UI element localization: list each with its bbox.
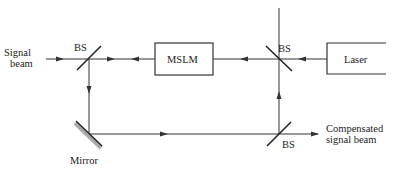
vertical-compensation-beam bbox=[277, 8, 282, 134]
mslm-to-bs-beam bbox=[89, 57, 155, 62]
bs-left-label: BS bbox=[74, 42, 87, 53]
bs-to-mirror-beam bbox=[87, 59, 92, 134]
mirror-label: Mirror bbox=[70, 155, 98, 166]
output-label-line2: signal beam bbox=[326, 134, 376, 145]
output-label-line1: Compensated bbox=[326, 123, 384, 134]
laser-beam bbox=[279, 57, 327, 62]
signal-beam-label-line1: Signal bbox=[4, 47, 31, 58]
laser-label: Laser bbox=[344, 54, 368, 65]
mirror-to-output-beam bbox=[89, 132, 319, 137]
signal-input-beam bbox=[46, 57, 89, 62]
bs-bottom-right-label: BS bbox=[282, 139, 295, 150]
bs-to-mslm-beam bbox=[213, 57, 279, 62]
signal-beam-label-line2: beam bbox=[10, 58, 33, 69]
mslm-label: MSLM bbox=[167, 54, 199, 65]
optical-diagram: Signal beam BS MSLM BS Laser Mirror BS C… bbox=[0, 0, 403, 171]
bs-top-right-label: BS bbox=[278, 43, 291, 54]
